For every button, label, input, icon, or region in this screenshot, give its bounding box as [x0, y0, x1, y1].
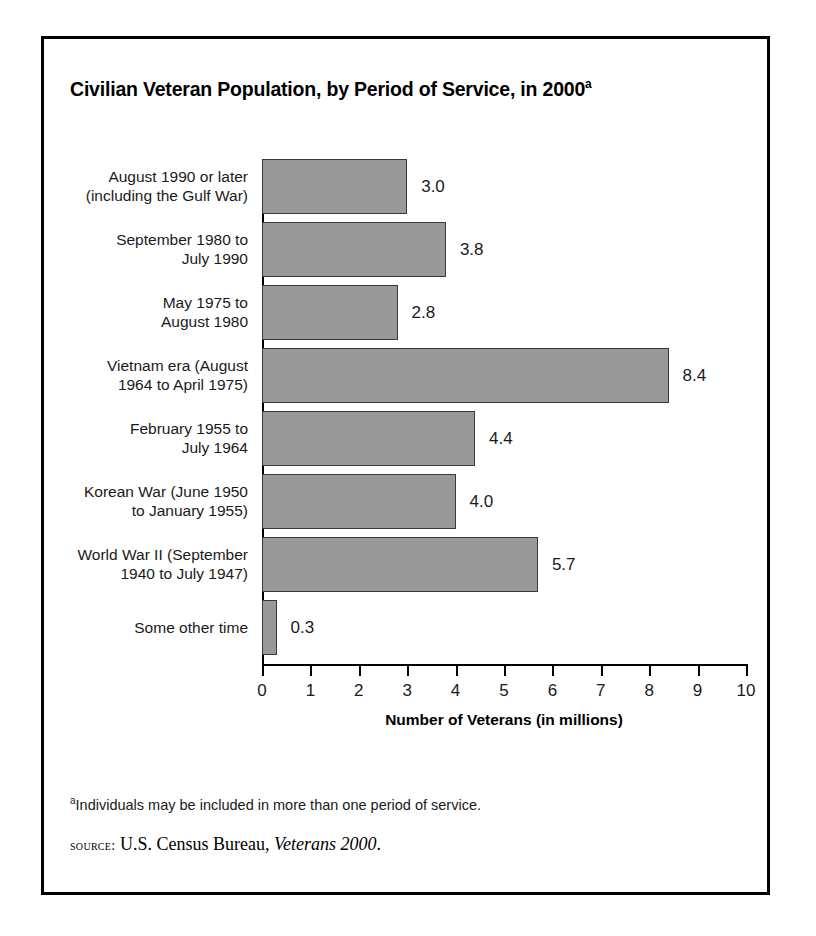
chart-title-text: Civilian Veteran Population, by Period o…: [70, 78, 585, 100]
bar-category-label: September 1980 toJuly 1990: [116, 230, 248, 270]
bar-category-label-line: Some other time: [134, 618, 248, 638]
bar-category-label-line: August 1980: [161, 313, 248, 333]
bar-row: Korean War (June 1950to January 1955)4.0: [262, 474, 746, 529]
bar-value-label: 5.7: [552, 555, 576, 575]
chart-title-footnote-marker: a: [585, 77, 591, 91]
bar-category-label-line: February 1955 to: [130, 419, 248, 439]
bar-category-label-line: July 1990: [116, 250, 248, 270]
x-axis-tick-label: 10: [737, 681, 756, 701]
bar: [262, 600, 277, 655]
bar: [262, 348, 669, 403]
x-axis-tick-label: 9: [693, 681, 702, 701]
bar-category-label: February 1955 toJuly 1964: [130, 419, 248, 459]
bar-category-label-line: World War II (September: [77, 545, 248, 565]
x-axis-tick-label: 6: [548, 681, 557, 701]
bar: [262, 159, 407, 214]
x-axis-tick-label: 2: [354, 681, 363, 701]
x-axis-tick: [262, 664, 264, 676]
bar-category-label: Some other time: [134, 618, 248, 638]
source-title: Veterans 2000: [274, 834, 377, 854]
source-label: Source:: [70, 838, 115, 853]
bar-row: Vietnam era (August1964 to April 1975)8.…: [262, 348, 746, 403]
x-axis-tick: [310, 664, 312, 676]
source-note: Source: U.S. Census Bureau, Veterans 200…: [70, 834, 381, 855]
bar-value-label: 4.4: [489, 429, 513, 449]
x-axis-tick-label: 4: [451, 681, 460, 701]
bar-value-label: 3.0: [421, 177, 445, 197]
bar-category-label: August 1990 or later(including the Gulf …: [86, 167, 248, 207]
bar-category-label: World War II (September1940 to July 1947…: [77, 545, 248, 585]
bar-category-label: Korean War (June 1950to January 1955): [84, 482, 248, 522]
bar-row: World War II (September1940 to July 1947…: [262, 537, 746, 592]
bar-category-label-line: Vietnam era (August: [107, 356, 248, 376]
source-period: .: [376, 834, 381, 854]
bar-row: August 1990 or later(including the Gulf …: [262, 159, 746, 214]
bar-value-label: 2.8: [412, 303, 436, 323]
bar: [262, 285, 398, 340]
bar-value-label: 8.4: [683, 366, 707, 386]
x-axis-title: Number of Veterans (in millions): [262, 711, 746, 729]
chart-title: Civilian Veteran Population, by Period o…: [70, 77, 592, 101]
bar-value-label: 0.3: [291, 618, 315, 638]
x-axis-tick-label: 7: [596, 681, 605, 701]
bar: [262, 411, 475, 466]
x-axis-tick: [359, 664, 361, 676]
x-axis-tick: [504, 664, 506, 676]
bar-category-label-line: May 1975 to: [161, 293, 248, 313]
bar-row: September 1980 toJuly 19903.8: [262, 222, 746, 277]
x-axis-tick-label: 3: [402, 681, 411, 701]
x-axis-tick-label: 5: [499, 681, 508, 701]
bar-value-label: 3.8: [460, 240, 484, 260]
x-axis-tick: [552, 664, 554, 676]
bar-row: May 1975 toAugust 19802.8: [262, 285, 746, 340]
x-axis-tick: [698, 664, 700, 676]
bar-category-label: Vietnam era (August1964 to April 1975): [107, 356, 248, 396]
x-axis-tick: [601, 664, 603, 676]
footnote-text: Individuals may be included in more than…: [76, 797, 481, 813]
bar-row: Some other time0.3: [262, 600, 746, 655]
x-axis-tick: [407, 664, 409, 676]
footnote: aIndividuals may be included in more tha…: [70, 795, 481, 813]
source-publisher-text: U.S. Census Bureau,: [120, 834, 270, 854]
bar: [262, 222, 446, 277]
bar-category-label-line: July 1964: [130, 439, 248, 459]
x-axis-tick: [649, 664, 651, 676]
bar-value-label: 4.0: [470, 492, 494, 512]
bar-category-label-line: September 1980 to: [116, 230, 248, 250]
x-axis-tick-label: 1: [306, 681, 315, 701]
x-axis-tick: [746, 664, 748, 676]
bar: [262, 537, 538, 592]
x-axis-tick: [456, 664, 458, 676]
bar-category-label-line: 1964 to April 1975): [107, 376, 248, 396]
x-axis-tick-label: 0: [257, 681, 266, 701]
x-axis-tick-label: 8: [644, 681, 653, 701]
bar-category-label-line: Korean War (June 1950: [84, 482, 248, 502]
bar-category-label-line: 1940 to July 1947): [77, 565, 248, 585]
bar-category-label-line: (including the Gulf War): [86, 187, 248, 207]
bar-category-label-line: August 1990 or later: [86, 167, 248, 187]
bar: [262, 474, 456, 529]
plot-area: August 1990 or later(including the Gulf …: [262, 159, 746, 664]
bar-category-label-line: to January 1955): [84, 502, 248, 522]
bar-category-label: May 1975 toAugust 1980: [161, 293, 248, 333]
figure-panel: Civilian Veteran Population, by Period o…: [41, 36, 770, 895]
bar-row: February 1955 toJuly 19644.4: [262, 411, 746, 466]
